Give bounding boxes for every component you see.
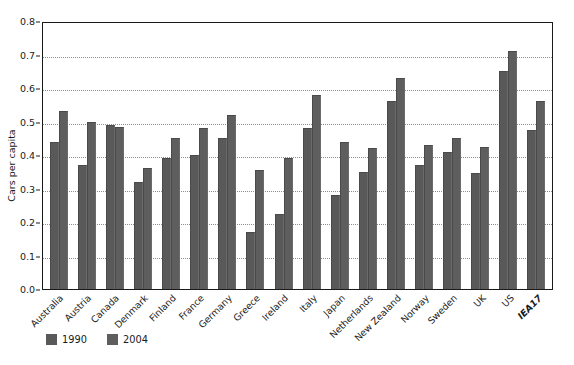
y-tick-mark <box>36 89 40 90</box>
bar-group <box>298 23 326 289</box>
bar <box>227 115 236 289</box>
chart-figure: Cars per capita 0.80.70.60.50.40.30.20.1… <box>0 0 574 365</box>
y-tick-mark <box>36 290 40 291</box>
y-tick-label: 0.7 <box>20 51 35 61</box>
bar-group <box>213 23 241 289</box>
bar-group <box>270 23 298 289</box>
y-tick-mark <box>36 22 40 23</box>
x-tick-label: UK <box>471 293 487 309</box>
y-tick-label: 0.0 <box>20 285 35 295</box>
bar <box>303 128 312 289</box>
bar <box>78 165 87 289</box>
bar <box>340 142 349 289</box>
bar <box>162 158 171 289</box>
bar <box>134 182 143 289</box>
bar <box>190 155 199 289</box>
chart-legend: 19902004 <box>46 334 148 345</box>
bar <box>452 138 461 289</box>
x-tick-label: Ireland <box>261 293 291 323</box>
title-remnant <box>40 0 460 7</box>
bar <box>443 152 452 289</box>
y-tick-mark <box>36 55 40 56</box>
bar-group <box>522 23 550 289</box>
bar-group <box>410 23 438 289</box>
bar-group <box>241 23 269 289</box>
bar-group <box>326 23 354 289</box>
y-axis-ticks: 0.80.70.60.50.40.30.20.10.0 <box>0 22 40 290</box>
bar <box>424 145 433 289</box>
legend-swatch <box>46 334 57 345</box>
bar <box>106 125 115 289</box>
bar <box>115 127 124 289</box>
bar-group <box>157 23 185 289</box>
bar <box>331 195 340 289</box>
bar <box>471 173 480 289</box>
bar-group <box>466 23 494 289</box>
bar <box>387 101 396 289</box>
bar-group <box>73 23 101 289</box>
bar <box>480 147 489 289</box>
x-tick-label: Sweden <box>426 293 459 326</box>
y-tick-mark <box>36 256 40 257</box>
bar <box>218 138 227 289</box>
y-tick-label: 0.5 <box>20 118 35 128</box>
y-tick-label: 0.1 <box>20 252 35 262</box>
bar <box>368 148 377 289</box>
legend-label: 2004 <box>123 334 148 345</box>
bar <box>255 170 264 289</box>
bar <box>536 101 545 289</box>
bar-group <box>382 23 410 289</box>
bar <box>312 95 321 289</box>
x-tick-label: Italy <box>297 293 318 314</box>
bar <box>171 138 180 289</box>
y-tick-label: 0.3 <box>20 185 35 195</box>
y-tick-mark <box>36 189 40 190</box>
x-tick-label: Greece <box>232 293 262 323</box>
legend-item: 1990 <box>46 334 87 345</box>
y-tick-label: 0.8 <box>20 17 35 27</box>
y-tick-label: 0.6 <box>20 84 35 94</box>
bars-layer <box>43 23 552 289</box>
bar <box>59 111 68 289</box>
legend-label: 1990 <box>62 334 87 345</box>
bar <box>246 232 255 289</box>
y-tick-mark <box>36 223 40 224</box>
x-tick-label: Australia <box>29 293 65 329</box>
bar <box>143 168 152 289</box>
legend-item: 2004 <box>107 334 148 345</box>
x-tick-label: US <box>500 293 516 309</box>
bar-group <box>101 23 129 289</box>
bar <box>527 130 536 289</box>
bar <box>499 71 508 289</box>
bar <box>508 51 517 289</box>
bar-group <box>438 23 466 289</box>
bar-group <box>354 23 382 289</box>
bar <box>284 158 293 289</box>
bar-group <box>185 23 213 289</box>
bar <box>396 78 405 289</box>
bar <box>359 172 368 289</box>
bar <box>199 128 208 289</box>
bar-group <box>129 23 157 289</box>
y-tick-label: 0.4 <box>20 151 35 161</box>
bar <box>50 142 59 289</box>
x-tick-label: IEA17 <box>516 293 544 321</box>
y-tick-mark <box>36 122 40 123</box>
bar <box>87 122 96 290</box>
legend-swatch <box>107 334 118 345</box>
bar-group <box>45 23 73 289</box>
bar <box>275 214 284 289</box>
bar-group <box>494 23 522 289</box>
bar <box>415 165 424 289</box>
y-tick-label: 0.2 <box>20 218 35 228</box>
x-tick-label: Finland <box>147 293 178 324</box>
plot-area <box>42 22 553 290</box>
y-tick-mark <box>36 156 40 157</box>
